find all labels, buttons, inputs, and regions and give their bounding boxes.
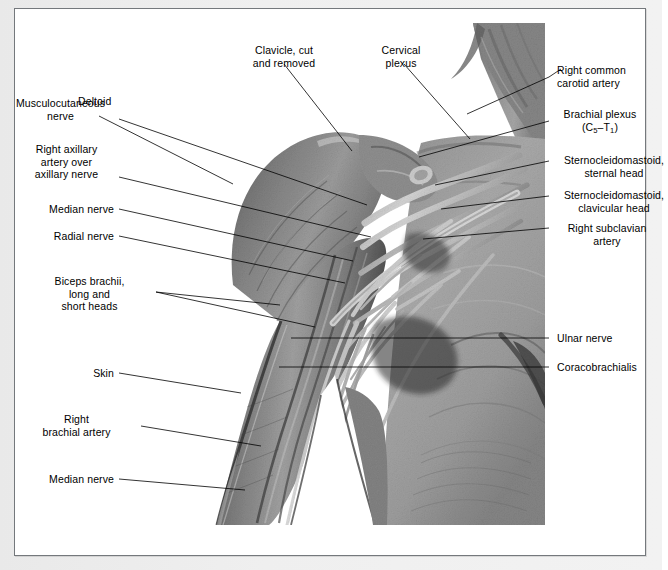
- label-right-axillary-artery-over-axillary-nerve: Right axillary artery over axillary nerv…: [15, 143, 118, 181]
- roots-prefix: (C: [582, 121, 593, 133]
- label-radial-nerve: Radial nerve: [15, 230, 114, 243]
- label-coracobrachialis: Coracobrachialis: [557, 361, 637, 374]
- label-median-nerve-lower: Median nerve: [15, 473, 114, 486]
- label-clavicle-cut-and-removed: Clavicle, cut and removed: [218, 44, 350, 69]
- label-musculocutaneous-nerve: Musculocutaneous nerve: [3, 97, 118, 122]
- label-cervical-plexus: Cervical plexus: [345, 44, 457, 69]
- label-biceps-brachii: Biceps brachii, long and short heads: [28, 275, 151, 313]
- label-skin: Skin: [15, 367, 114, 380]
- label-brachial-plexus: Brachial plexus (C5–T1): [555, 108, 645, 137]
- label-sternocleidomastoid-clavicular-head: Sternocleidomastoid, clavicular head: [553, 189, 668, 214]
- label-right-subclavian-artery: Right subclavian artery: [555, 222, 659, 247]
- label-sternocleidomastoid-sternal-head: Sternocleidomastoid, sternal head: [553, 154, 668, 179]
- label-right-common-carotid-artery: Right common carotid artery: [557, 64, 626, 89]
- roots-suffix: ): [614, 121, 618, 133]
- label-brachial-plexus-roots: (C5–T1): [555, 121, 645, 137]
- roots-mid: –T: [598, 121, 610, 133]
- label-median-nerve-upper: Median nerve: [15, 203, 114, 216]
- figure-page-sheet: Black and white cadaveric dissection pho…: [14, 8, 646, 556]
- dissection-photograph: Black and white cadaveric dissection pho…: [121, 23, 545, 525]
- label-right-brachial-artery: Right brachial artery: [17, 413, 136, 438]
- label-ulnar-nerve: Ulnar nerve: [557, 332, 612, 345]
